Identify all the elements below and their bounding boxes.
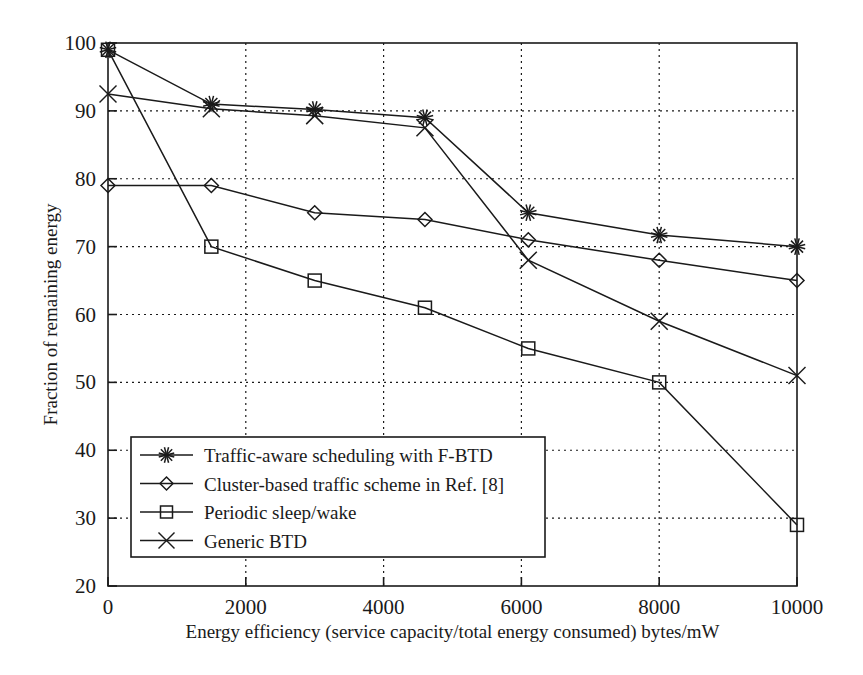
chart-figure: 2030405060708090100020004000600080001000…	[0, 0, 863, 675]
series-line	[108, 186, 797, 281]
x-tick-label: 0	[103, 595, 114, 619]
y-tick-label: 70	[75, 235, 96, 259]
series-line	[108, 94, 797, 376]
y-tick-label: 40	[75, 438, 96, 462]
x-tick-label: 6000	[500, 595, 542, 619]
x-tick-label: 10000	[771, 595, 824, 619]
data-series-2	[101, 179, 804, 288]
y-tick-label: 80	[75, 167, 96, 191]
legend-label: Cluster-based traffic scheme in Ref. [8]	[204, 474, 504, 495]
y-tick-label: 50	[75, 370, 96, 394]
x-axis-title: Energy efficiency (service capacity/tota…	[186, 621, 720, 643]
data-series-1	[100, 42, 805, 255]
y-tick-label: 100	[65, 31, 97, 55]
x-tick-label: 4000	[363, 595, 405, 619]
y-tick-label: 20	[75, 574, 96, 598]
x-tick-label: 8000	[638, 595, 680, 619]
y-tick-label: 30	[75, 506, 96, 530]
legend-label: Traffic-aware scheduling with F-BTD	[204, 445, 493, 466]
chart-legend: Traffic-aware scheduling with F-BTDClust…	[131, 437, 545, 557]
legend-label: Periodic sleep/wake	[204, 502, 356, 523]
x-tick-label: 2000	[225, 595, 267, 619]
series-line	[108, 50, 797, 247]
legend-label: Generic BTD	[204, 531, 307, 552]
y-tick-label: 60	[75, 303, 96, 327]
y-axis-title: Fraction of remaining energy	[40, 203, 61, 425]
y-tick-label: 90	[75, 99, 96, 123]
line-chart: 2030405060708090100020004000600080001000…	[0, 0, 863, 675]
